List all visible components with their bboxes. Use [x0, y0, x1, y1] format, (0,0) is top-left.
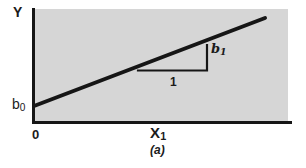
origin-label-text: 0: [32, 127, 39, 142]
plot-area-shading: [34, 9, 288, 122]
panel-label: (a): [150, 144, 165, 156]
x-axis-label-text: X: [150, 124, 160, 141]
run-label: 1: [170, 76, 177, 88]
slope-label-subscript: 1: [220, 46, 227, 57]
y-axis-label-text: Y: [13, 4, 23, 20]
x-axis-label-subscript: 1: [160, 130, 166, 142]
intercept-label-subscript: 0: [20, 102, 26, 113]
slope-label: b1: [211, 42, 227, 56]
y-axis-label: Y: [13, 5, 23, 19]
run-label-text: 1: [170, 75, 177, 89]
slope-label-text: b: [211, 41, 220, 56]
regression-figure: Y b0 0 X1 b1 1 (a): [0, 0, 306, 168]
intercept-label: b0: [12, 97, 25, 113]
panel-label-text: (a): [150, 143, 165, 157]
x-axis-label: X1: [150, 125, 166, 142]
origin-label: 0: [32, 128, 39, 141]
intercept-label-text: b: [12, 96, 20, 112]
